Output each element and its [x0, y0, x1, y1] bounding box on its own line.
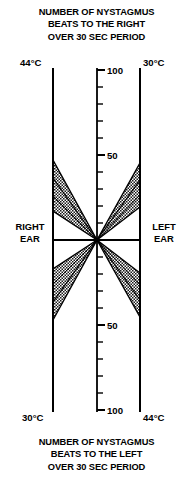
chart-plot-area: 100 50 50 100 — [0, 0, 193, 482]
wing-top-left — [53, 160, 97, 240]
wing-top-right — [97, 163, 140, 240]
axis-major-ticks-lower — [97, 325, 105, 410]
axis-major-ticks-upper — [97, 70, 105, 155]
wing-bottom-right — [97, 240, 140, 317]
axis-label-upper-50: 50 — [107, 150, 118, 161]
wing-bottom-left — [53, 240, 97, 320]
caloric-butterfly-chart: NUMBER OF NYSTAGMUS BEATS TO THE RIGHT O… — [0, 0, 193, 482]
axis-label-upper-100: 100 — [107, 65, 123, 76]
axis-label-lower-100: 100 — [107, 405, 123, 416]
axis-label-lower-50: 50 — [107, 320, 118, 331]
